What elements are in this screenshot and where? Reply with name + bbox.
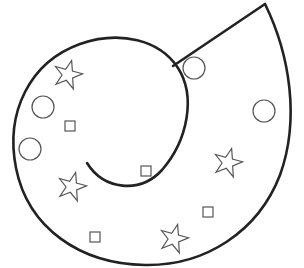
star-icon	[55, 169, 89, 202]
square-shape	[90, 232, 100, 242]
circle-shape	[183, 57, 205, 79]
circle-shape	[32, 96, 54, 118]
star-icon	[51, 57, 85, 90]
shell-tip-edge	[173, 4, 265, 66]
circle-shape	[19, 138, 41, 160]
square-shape	[141, 166, 151, 176]
star-icon	[211, 145, 245, 178]
square-shape	[203, 207, 213, 217]
shell-outer-outline	[13, 4, 290, 265]
circle-shape	[253, 100, 275, 122]
spiral-shell-figure	[0, 0, 304, 268]
square-shape	[65, 121, 75, 131]
star-icon	[157, 221, 191, 254]
